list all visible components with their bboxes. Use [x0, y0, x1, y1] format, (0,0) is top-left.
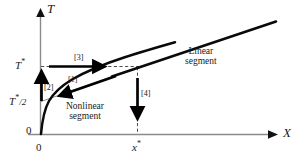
tick-label-t-star-half: T*/2 — [9, 94, 26, 107]
nonlinear-segment-label: Nonlinear segment — [66, 102, 104, 122]
tick-label-t-star: T* — [15, 58, 25, 71]
plot-canvas — [0, 0, 305, 163]
tick-label-x-star: x* — [132, 140, 141, 153]
x-axis-label: X — [283, 126, 291, 140]
x-axis — [28, 130, 278, 138]
t-half-fraction: /2 — [19, 97, 26, 107]
origin-label-x: 0 — [36, 142, 42, 154]
t-star-superscript: * — [21, 57, 25, 66]
linear-segment-label: Linear segment — [185, 47, 217, 67]
linear-segment-line2: segment — [185, 57, 217, 67]
origin-label-y: 0 — [26, 125, 32, 137]
nonlinear-curve — [41, 42, 175, 134]
y-axis-label: T — [47, 2, 54, 16]
nonlinear-segment-line2: segment — [66, 112, 104, 122]
step-1-label: [1] — [68, 76, 77, 84]
step-3-label: [3] — [74, 54, 83, 62]
figure-container: T X 0 0 T* T*/2 x* Linear segment Nonlin… — [0, 0, 305, 163]
step-4-label: [4] — [141, 90, 150, 98]
step-2-label: [2] — [44, 84, 53, 92]
x-star-superscript: * — [137, 139, 141, 148]
